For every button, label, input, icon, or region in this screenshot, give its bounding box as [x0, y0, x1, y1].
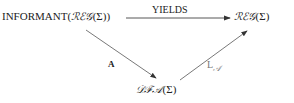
edge-label-la: L𝒜	[207, 59, 221, 74]
edge-label-yields: YIELDS	[152, 4, 188, 15]
node-informant: INFORMANT(ℛℰ𝒢(Σ))	[2, 10, 110, 23]
reg-suffix: (Σ)	[256, 10, 270, 22]
informant-cal: ℛℰ𝒢	[71, 10, 93, 22]
reg-cal: ℛℰ𝒢	[234, 10, 256, 22]
edge-label-a: A	[108, 59, 115, 69]
informant-prefix: INFORMANT(	[2, 10, 71, 22]
node-dfa: 𝒟ℱ𝒜(Σ)	[136, 83, 176, 96]
dfa-cal: 𝒟ℱ𝒜	[136, 83, 163, 95]
a-arrow	[86, 30, 156, 78]
informant-suffix: (Σ))	[93, 10, 110, 22]
node-reg: ℛℰ𝒢(Σ)	[234, 10, 269, 23]
la-sub: 𝒜	[213, 64, 221, 73]
dfa-suffix: (Σ)	[163, 83, 177, 95]
